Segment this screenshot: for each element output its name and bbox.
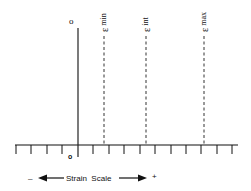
epsilon-max-label: εmax xyxy=(199,12,210,32)
svg-text:εmax: εmax xyxy=(199,12,210,32)
origin-bottom-label: o xyxy=(68,153,72,160)
svg-text:εint: εint xyxy=(141,17,152,32)
epsilon-min-label: εmin xyxy=(99,13,110,32)
epsilon-int-label: εint xyxy=(141,17,152,32)
svg-text:εmin: εmin xyxy=(99,13,110,32)
scale-label: Strain Scale xyxy=(66,174,112,183)
left-arrow-icon xyxy=(38,175,64,182)
marker-lines xyxy=(104,36,204,145)
origin-top-label: o xyxy=(69,16,74,26)
minus-label: – xyxy=(28,174,33,183)
right-arrow-icon xyxy=(119,175,147,182)
plus-label: + xyxy=(152,172,157,181)
strain-scale-diagram: o o εmin εint εmax – Strain Scale + xyxy=(0,0,251,191)
tick-marks xyxy=(16,145,232,154)
